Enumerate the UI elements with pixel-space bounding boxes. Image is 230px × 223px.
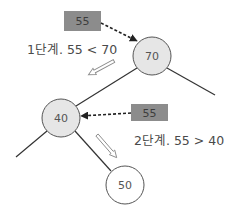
- edge-40-to-50: [75, 131, 111, 171]
- bst-insertion-diagram: 70 40 50 55 55 1단계. 55 < 70 2단계. 55 > 40: [0, 0, 230, 223]
- node-label: 50: [118, 179, 132, 192]
- tree-node-40: 40: [42, 99, 80, 137]
- dashed-arrow-to-70: [101, 23, 137, 41]
- edge-70-to-right: [167, 68, 215, 95]
- node-label: 40: [54, 112, 68, 125]
- key-box-step2: 55: [131, 104, 168, 121]
- hollow-arrow-down-left-icon: [87, 58, 116, 78]
- step1-label: 1단계. 55 < 70: [27, 42, 117, 57]
- key-box-label: 55: [76, 15, 90, 28]
- dashed-arrow-to-40: [81, 113, 131, 116]
- node-label: 70: [145, 50, 159, 63]
- step2-label: 2단계. 55 > 40: [134, 133, 224, 148]
- tree-node-70: 70: [133, 37, 171, 75]
- key-box-step1: 55: [64, 11, 101, 31]
- edge-70-to-40: [76, 68, 137, 106]
- key-box-label: 55: [143, 107, 157, 120]
- tree-node-50: 50: [106, 166, 144, 204]
- edge-40-to-left: [16, 131, 47, 157]
